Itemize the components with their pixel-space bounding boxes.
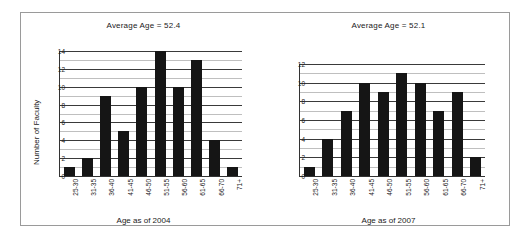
bar xyxy=(322,139,333,176)
bar xyxy=(470,157,481,176)
x-axis-tick-label: 25-30 xyxy=(312,179,319,196)
y-axis-tick-label: 12 xyxy=(58,65,65,72)
x-axis-tick: 25-30 xyxy=(303,176,314,216)
x-axis-tick: 51-55 xyxy=(154,176,165,216)
x-axis-tick: 66-70 xyxy=(208,176,219,216)
x-axis-tick-label: 41-45 xyxy=(367,179,374,196)
x-axis-tick-label: 36-40 xyxy=(349,179,356,196)
figure-frame: Average Age = 52.4 Number of Faculty 024… xyxy=(20,12,510,226)
y-axis-tick-label: 4 xyxy=(61,137,65,144)
bar-series xyxy=(300,64,485,176)
y-axis-tick-label: 10 xyxy=(58,83,65,90)
y-axis-tick-label: 12 xyxy=(298,61,305,68)
x-axis-tick: 71+ xyxy=(469,176,480,216)
x-axis-tick: 41-45 xyxy=(117,176,128,216)
plot-wrap: 02468101214 25-3031-3536-4041-4546-5051-… xyxy=(59,51,241,176)
bar xyxy=(209,140,220,176)
bar xyxy=(82,158,93,176)
x-axis-tick-label: 36-40 xyxy=(108,179,115,196)
x-axis-tick: 46-50 xyxy=(135,176,146,216)
x-axis-tick: 46-50 xyxy=(377,176,388,216)
x-axis-tick: 31-35 xyxy=(321,176,332,216)
x-axis-ticks: 25-3031-3536-4041-4546-5051-5556-6061-65… xyxy=(59,176,241,216)
x-axis-tick-label: 66-70 xyxy=(217,179,224,196)
x-axis-tick-label: 51-55 xyxy=(404,179,411,196)
x-axis-tick-label: 31-35 xyxy=(330,179,337,196)
chart-title: Average Age = 52.1 xyxy=(266,21,511,30)
y-axis-tick-label: 2 xyxy=(61,155,65,162)
bar xyxy=(100,96,111,176)
plot-wrap: 024681012 25-3031-3536-4041-4546-5051-55… xyxy=(299,64,484,176)
bar xyxy=(227,167,238,176)
bar xyxy=(304,167,315,176)
bar xyxy=(341,111,352,176)
x-axis-tick: 36-40 xyxy=(340,176,351,216)
y-axis-tick-label: 8 xyxy=(61,101,65,108)
chart-panel-2007: Average Age = 52.1 024681012 25-3031-353… xyxy=(266,13,511,225)
y-axis-tick-label: 8 xyxy=(301,98,305,105)
x-axis-title: Age as of 2004 xyxy=(21,216,266,225)
bar xyxy=(378,92,389,176)
x-axis-tick: 41-45 xyxy=(358,176,369,216)
x-axis-tick: 61-65 xyxy=(432,176,443,216)
chart-panel-2004: Average Age = 52.4 Number of Faculty 024… xyxy=(21,13,266,225)
bar xyxy=(136,87,147,176)
x-axis-tick-label: 71+ xyxy=(235,179,242,190)
x-axis-tick-label: 66-70 xyxy=(460,179,467,196)
bar xyxy=(396,73,407,176)
x-axis-tick-label: 46-50 xyxy=(386,179,393,196)
y-axis-tick-label: 6 xyxy=(61,119,65,126)
chart-title: Average Age = 52.4 xyxy=(21,21,266,30)
bar xyxy=(155,51,166,176)
y-axis-title: Number of Faculty xyxy=(32,100,41,165)
x-axis-tick-label: 61-65 xyxy=(199,179,206,196)
y-axis-ticks: 02468101214 xyxy=(53,51,65,176)
bar xyxy=(191,60,202,176)
y-axis-tick-label: 6 xyxy=(301,117,305,124)
x-axis-tick-label: 56-60 xyxy=(181,179,188,196)
y-axis-tick-label: 10 xyxy=(298,79,305,86)
x-axis-tick-label: 51-55 xyxy=(163,179,170,196)
bar xyxy=(452,92,463,176)
x-axis-tick: 71+ xyxy=(226,176,237,216)
y-axis-ticks: 024681012 xyxy=(293,64,305,176)
x-axis-ticks: 25-3031-3536-4041-4546-5051-5556-6061-65… xyxy=(299,176,484,216)
x-axis-tick-label: 46-50 xyxy=(144,179,151,196)
x-axis-tick: 66-70 xyxy=(451,176,462,216)
x-axis-title: Age as of 2007 xyxy=(266,216,511,225)
x-axis-tick: 61-65 xyxy=(190,176,201,216)
y-axis-tick-label: 4 xyxy=(301,135,305,142)
x-axis-tick: 25-30 xyxy=(63,176,74,216)
bar xyxy=(415,83,426,176)
x-axis-tick: 56-60 xyxy=(172,176,183,216)
x-axis-tick: 56-60 xyxy=(414,176,425,216)
x-axis-tick-label: 71+ xyxy=(478,179,485,190)
x-axis-tick: 51-55 xyxy=(395,176,406,216)
x-axis-tick-label: 41-45 xyxy=(126,179,133,196)
plot-area xyxy=(59,51,242,177)
x-axis-tick-label: 31-35 xyxy=(90,179,97,196)
plot-area xyxy=(299,64,485,177)
bar-series xyxy=(60,51,242,176)
bar xyxy=(173,87,184,176)
y-axis-tick-label: 2 xyxy=(301,154,305,161)
x-axis-tick-label: 61-65 xyxy=(441,179,448,196)
x-axis-tick: 36-40 xyxy=(99,176,110,216)
x-axis-tick-label: 25-30 xyxy=(72,179,79,196)
bar xyxy=(118,131,129,176)
x-axis-tick: 31-35 xyxy=(81,176,92,216)
x-axis-tick-label: 56-60 xyxy=(423,179,430,196)
y-axis-tick-label: 14 xyxy=(58,48,65,55)
bar xyxy=(433,111,444,176)
bar xyxy=(359,83,370,176)
